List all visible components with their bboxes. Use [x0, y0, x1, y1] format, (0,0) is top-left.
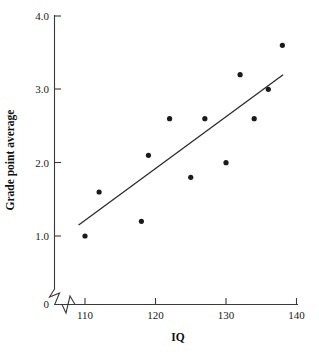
x-tick-label-110: 110 [77, 309, 94, 321]
x-axis-title: IQ [171, 331, 184, 343]
y-axis-ticks [55, 16, 62, 236]
plot-canvas: 4.0 3.0 2.0 1.0 0 110 120 130 140 IQ Gra… [0, 0, 319, 357]
data-point [280, 43, 285, 48]
data-point [97, 189, 102, 194]
y-tick-label-4: 4.0 [35, 10, 49, 22]
y-axis-title: Grade point average [4, 110, 17, 211]
data-point [238, 72, 243, 77]
data-point [223, 160, 228, 165]
data-point [167, 116, 172, 121]
y-tick-label-1: 1.0 [35, 230, 49, 242]
data-point [146, 153, 151, 158]
y-tick-label-2: 2.0 [35, 157, 49, 169]
data-point [202, 116, 207, 121]
data-point [188, 175, 193, 180]
x-tick-label-130: 130 [218, 309, 235, 321]
x-axis-ticks [85, 298, 297, 305]
trend-line [79, 75, 283, 225]
data-point [266, 87, 271, 92]
data-points-group [82, 43, 285, 239]
data-point [82, 233, 87, 238]
y-tick-label-3: 3.0 [35, 83, 49, 95]
y-tick-label-0: 0 [44, 298, 50, 310]
y-axis-break-icon [50, 283, 60, 305]
x-tick-label-120: 120 [147, 309, 164, 321]
x-tick-label-140: 140 [288, 309, 305, 321]
data-point [139, 219, 144, 224]
data-point [252, 116, 257, 121]
scatter-plot-figure: 4.0 3.0 2.0 1.0 0 110 120 130 140 IQ Gra… [0, 0, 319, 357]
